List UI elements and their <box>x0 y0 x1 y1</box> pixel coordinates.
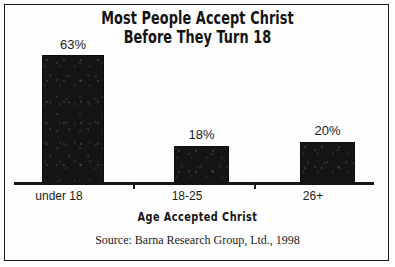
bar-under-18[interactable] <box>42 55 104 183</box>
bar-slot-18-25: 18% <box>174 40 229 183</box>
x-axis-label-under-18: under 18 <box>18 189 100 203</box>
bar-value-18-25: 18% <box>174 127 229 142</box>
bar-18-25[interactable] <box>174 146 229 183</box>
bar-26-plus[interactable] <box>300 142 355 183</box>
chart-title-line-1: Most People Accept Christ <box>32 9 364 28</box>
bar-value-26-plus: 20% <box>300 123 355 138</box>
source-note: Source: Barna Research Group, Ltd., 1998 <box>0 233 395 248</box>
x-axis-tick-2 <box>254 183 256 189</box>
bar-slot-26-plus: 20% <box>300 40 355 183</box>
x-axis-label-26-plus: 26+ <box>272 189 354 203</box>
x-axis-title: Age Accepted Christ <box>20 210 376 224</box>
bar-slot-under-18: 63% <box>42 40 104 183</box>
chart-figure: Most People Accept Christ Before They Tu… <box>0 0 395 267</box>
bar-value-under-18: 63% <box>42 37 104 52</box>
plot-area: 63% 18% 20% <box>14 40 374 183</box>
x-axis-line <box>14 182 374 185</box>
x-axis-tick-1 <box>133 183 135 189</box>
x-axis-label-18-25: 18-25 <box>146 189 228 203</box>
